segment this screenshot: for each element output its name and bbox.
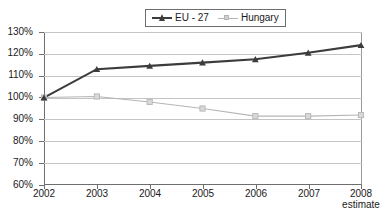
legend-label-hungary: Hungary (241, 13, 279, 23)
series-plot-svg (44, 32, 362, 185)
eu-27-series-marker-icon (152, 13, 172, 23)
y-axis-tick-120: 120% (0, 48, 38, 58)
plot-area (44, 32, 362, 185)
y-axis-tick-90: 90% (0, 114, 38, 124)
x-axis-label-2006: 2006 (226, 188, 286, 199)
x-axis-label-2007: 2007 (279, 188, 339, 199)
y-axis-tick-130: 130% (0, 27, 38, 37)
legend-item-hungary: Hungary (218, 13, 279, 23)
x-axis-label-2005: 2005 (173, 188, 233, 199)
hungary-point-2004 (147, 99, 152, 104)
y-axis-tick-70: 70% (0, 158, 38, 168)
y-axis-tick-100: 100% (0, 92, 38, 102)
hungary-data-markers (41, 94, 363, 119)
hungary-point-2005 (200, 106, 205, 111)
x-axis-label-2008: 2008 estimate (331, 188, 391, 210)
x-axis-label-2008-year: 2008 (350, 188, 372, 199)
x-axis-label-2004: 2004 (120, 188, 180, 199)
x-axis-label-2002: 2002 (14, 188, 74, 199)
x-axis-label-2003: 2003 (67, 188, 127, 199)
x-axis-note-estimate: estimate (331, 199, 391, 210)
eu-27-series-line (44, 45, 361, 97)
y-axis-tick-80: 80% (0, 136, 38, 146)
hungary-point-2006 (253, 114, 258, 119)
chart-legend: EU - 27 Hungary (145, 9, 286, 27)
chart-container: EU - 27 Hungary 130% 120% 110% 100% 90% … (0, 0, 392, 222)
legend-label-eu-27: EU - 27 (175, 13, 209, 23)
hungary-point-2003 (94, 94, 99, 99)
legend-item-eu-27: EU - 27 (152, 13, 209, 23)
hungary-series-marker-icon (218, 13, 238, 23)
hungary-point-2008 (358, 112, 363, 117)
hungary-point-2007 (306, 114, 311, 119)
y-axis-tick-110: 110% (0, 70, 38, 80)
